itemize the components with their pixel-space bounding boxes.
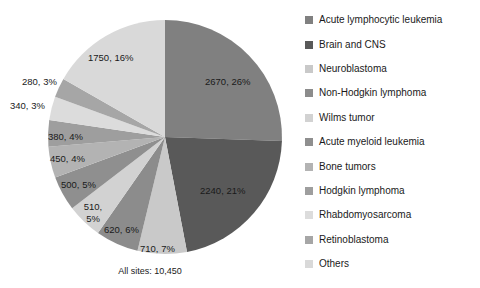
pie-slice-label: 620, 6% xyxy=(104,224,139,236)
pie-slice-label: 500, 5% xyxy=(61,179,96,191)
pie-slice-label-line: 510, xyxy=(80,201,106,213)
pie-chart-area: 2670, 26%2240, 21%710, 7%620, 6%510,5%50… xyxy=(0,0,300,288)
legend-item-label: Bone tumors xyxy=(319,161,376,173)
legend-item[interactable]: Retinoblastoma xyxy=(305,228,480,252)
legend-item[interactable]: Wilms tumor xyxy=(305,106,480,130)
legend-swatch-icon xyxy=(305,260,313,268)
pie-slice-label: 340, 3% xyxy=(10,100,45,112)
legend-item-label: Others xyxy=(319,258,349,270)
legend-item-label: Non-Hodgkin lymphoma xyxy=(319,87,426,99)
legend-item-label: Retinoblastoma xyxy=(319,234,388,246)
pie-slice-label: 2670, 26% xyxy=(205,76,250,88)
legend-swatch-icon xyxy=(305,138,313,146)
pie-slice-label-line: 5% xyxy=(80,213,106,225)
legend-swatch-icon xyxy=(305,89,313,97)
pie-slice-label: 450, 4% xyxy=(50,153,85,165)
pie-slice-label: 1750, 16% xyxy=(88,52,133,64)
legend-item-label: Acute myeloid leukemia xyxy=(319,136,425,148)
pie-chart-svg xyxy=(0,0,300,270)
legend-item[interactable]: Others xyxy=(305,252,480,276)
legend-swatch-icon xyxy=(305,41,313,49)
pie-slice-label: 510,5% xyxy=(80,201,106,224)
legend-item-label: Hodgkin lymphoma xyxy=(319,185,405,197)
legend-item[interactable]: Non-Hodgkin lymphoma xyxy=(305,81,480,105)
legend-item-label: Neuroblastoma xyxy=(319,63,387,75)
legend-item[interactable]: Rhabdomyosarcoma xyxy=(305,203,480,227)
legend-swatch-icon xyxy=(305,163,313,171)
chart-legend: Acute lymphocytic leukemiaBrain and CNSN… xyxy=(305,8,480,276)
pie-slice-label: 380, 4% xyxy=(48,131,83,143)
legend-item-label: Rhabdomyosarcoma xyxy=(319,209,411,221)
legend-item[interactable]: Hodgkin lymphoma xyxy=(305,179,480,203)
legend-swatch-icon xyxy=(305,114,313,122)
legend-item[interactable]: Acute lymphocytic leukemia xyxy=(305,8,480,32)
legend-swatch-icon xyxy=(305,211,313,219)
pie-slice-label: 2240, 21% xyxy=(200,185,245,197)
legend-swatch-icon xyxy=(305,236,313,244)
legend-item[interactable]: Neuroblastoma xyxy=(305,57,480,81)
pie-slice-label: 280, 3% xyxy=(22,76,57,88)
legend-item[interactable]: Bone tumors xyxy=(305,154,480,178)
legend-swatch-icon xyxy=(305,65,313,73)
pie-slice-label: 710, 7% xyxy=(140,243,175,255)
legend-swatch-icon xyxy=(305,16,313,24)
legend-item-label: Brain and CNS xyxy=(319,39,386,51)
legend-swatch-icon xyxy=(305,187,313,195)
legend-item[interactable]: Acute myeloid leukemia xyxy=(305,130,480,154)
chart-container: 2670, 26%2240, 21%710, 7%620, 6%510,5%50… xyxy=(0,0,480,288)
legend-item-label: Wilms tumor xyxy=(319,112,375,124)
legend-item[interactable]: Brain and CNS xyxy=(305,32,480,56)
legend-item-label: Acute lymphocytic leukemia xyxy=(319,14,442,26)
chart-total-caption: All sites: 10,450 xyxy=(0,266,300,276)
